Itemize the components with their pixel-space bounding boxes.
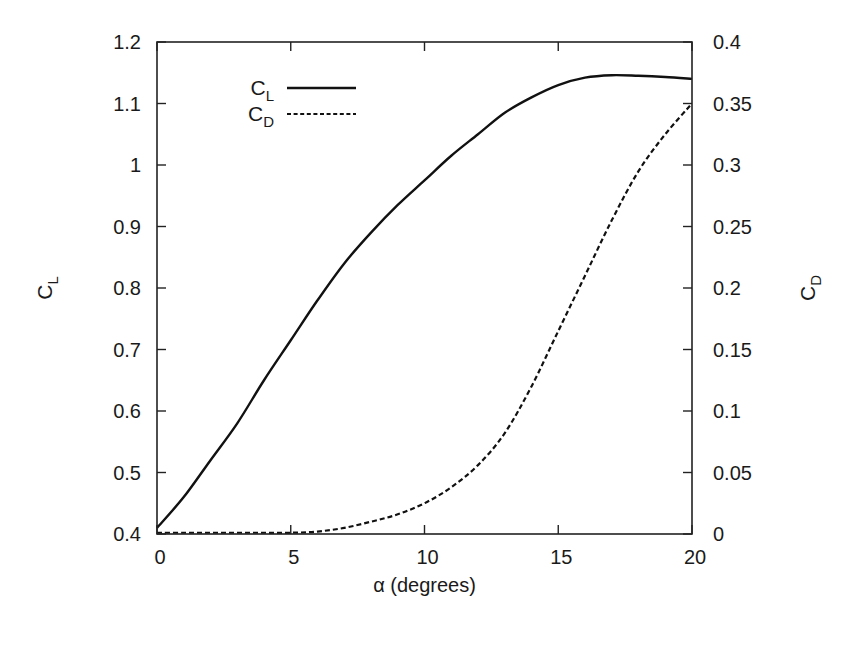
y-tick-label: 1.1 — [113, 93, 141, 115]
y-tick-label: 0.7 — [113, 339, 141, 361]
x-axis-label: α (degrees) — [373, 574, 476, 596]
x-tick-label: 0 — [154, 546, 165, 568]
legend-item-c-l: CL — [250, 76, 356, 104]
legend-label: CD — [248, 102, 274, 130]
series-c-d-line — [157, 104, 692, 533]
y-axis-label-right: CD — [796, 275, 824, 301]
y-tick-label: 0.5 — [113, 462, 141, 484]
y-tick-label: 0.9 — [113, 216, 141, 238]
y2-tick-label: 0.25 — [713, 216, 752, 238]
y2-axis-label-main: C — [796, 286, 819, 301]
y2-tick-label: 0.4 — [713, 31, 741, 53]
x-tick-label: 15 — [550, 546, 572, 568]
y-axis-label-left: CL — [33, 276, 61, 300]
y2-tick-label: 0.3 — [713, 154, 741, 176]
tick-labels: 051015200.40.50.60.70.80.911.11.200.050.… — [113, 31, 752, 568]
y2-tick-label: 0.15 — [713, 339, 752, 361]
series-lines — [157, 75, 692, 533]
svg-text:CD: CD — [796, 275, 824, 301]
svg-text:CL: CL — [33, 276, 61, 300]
y2-axis-label-sub: D — [807, 275, 824, 286]
y2-tick-label: 0 — [713, 523, 724, 545]
y-axis-label-main: C — [33, 285, 56, 300]
y2-tick-label: 0.2 — [713, 277, 741, 299]
x-tick-label: 10 — [416, 546, 438, 568]
x-tick-label: 20 — [684, 546, 706, 568]
chart: 051015200.40.50.60.70.80.911.11.200.050.… — [0, 0, 862, 646]
series-c-l-line — [157, 75, 692, 528]
plot-frame — [157, 42, 692, 534]
legend-label: CL — [250, 76, 274, 104]
y2-tick-label: 0.05 — [713, 462, 752, 484]
y-axis-label-sub: L — [44, 276, 61, 284]
axis-ticks — [157, 42, 692, 534]
y-tick-label: 0.4 — [113, 523, 141, 545]
y-tick-label: 0.8 — [113, 277, 141, 299]
y2-tick-label: 0.35 — [713, 93, 752, 115]
legend: CLCD — [248, 76, 356, 130]
y2-tick-label: 0.1 — [713, 400, 741, 422]
y-tick-label: 1 — [130, 154, 141, 176]
y-tick-label: 1.2 — [113, 31, 141, 53]
y-tick-label: 0.6 — [113, 400, 141, 422]
legend-item-c-d: CD — [248, 102, 356, 130]
x-tick-label: 5 — [288, 546, 299, 568]
